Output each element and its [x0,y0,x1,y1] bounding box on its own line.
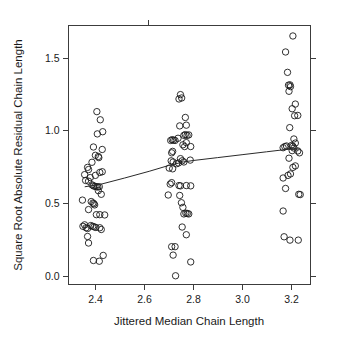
x-tick-label: 3.2 [284,293,299,305]
x-tick-label: 3.0 [235,293,250,305]
y-tick-label: 1.0 [45,124,60,136]
y-tick-label: 1.5 [45,52,60,64]
figure-background [0,0,342,338]
scatter-plot-figure: 2.42.62.83.03.2 0.00.51.01.5 Jittered Me… [0,0,342,338]
plot-canvas: 2.42.62.83.03.2 0.00.51.01.5 Jittered Me… [0,0,342,338]
y-tick-label: 0.5 [45,197,60,209]
x-tick-label: 2.8 [186,293,201,305]
y-tick-label: 0.0 [45,270,60,282]
x-tick-label: 2.6 [137,293,152,305]
x-axis-title: Jittered Median Chain Length [114,315,264,327]
y-axis-title: Square Root Absolute Residual Chain Leng… [12,39,24,270]
x-tick-label: 2.4 [88,293,103,305]
